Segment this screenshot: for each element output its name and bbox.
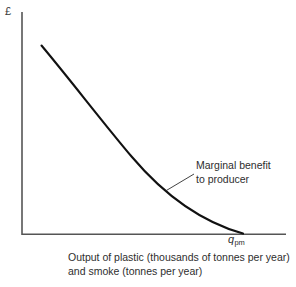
annotation-line-2: to producer <box>196 173 271 187</box>
y-axis-label: £ <box>5 6 11 17</box>
x-axis-caption-line-1: Output of plastic (thousands of tonnes p… <box>68 251 290 265</box>
q-pm-tick-label: qpm <box>228 234 245 245</box>
economics-figure: £ Marginal benefit to producer qpm Outpu… <box>0 0 296 287</box>
annotation-leader-line <box>166 174 195 191</box>
x-axis-caption: Output of plastic (thousands of tonnes p… <box>68 251 290 279</box>
marginal-benefit-curve <box>42 46 244 234</box>
x-axis-caption-line-2: and smoke (tonnes per year) <box>68 265 290 279</box>
marginal-benefit-annotation: Marginal benefit to producer <box>196 159 271 186</box>
annotation-line-1: Marginal benefit <box>196 159 271 173</box>
plot-area <box>0 0 296 287</box>
q-pm-subscript: pm <box>234 238 244 247</box>
